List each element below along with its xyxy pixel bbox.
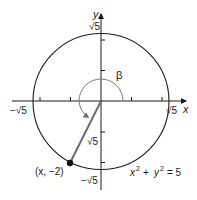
svg-text:2: 2	[136, 165, 140, 172]
point-marker	[67, 160, 73, 166]
x-axis-label: x	[182, 103, 189, 115]
y-neg-label: −√5	[81, 175, 98, 186]
circle-equation: x 2 + y 2 = 5	[129, 165, 182, 178]
svg-text:= 5: = 5	[167, 167, 182, 178]
angle-label: β	[116, 69, 122, 81]
x-neg-label: −√5	[10, 105, 27, 116]
svg-text:y: y	[153, 167, 160, 178]
terminal-side	[70, 101, 101, 163]
y-pos-label: √5	[89, 21, 100, 32]
svg-text:x: x	[129, 167, 136, 178]
circle-diagram: y √5 x √5 −√5 −√5 β √5 (x, −2) x 2 + y 2…	[0, 0, 197, 200]
y-axis-label: y	[92, 8, 100, 20]
x-pos-label: √5	[166, 105, 177, 116]
terminal-length-label: √5	[87, 136, 98, 147]
svg-text:+: +	[143, 167, 149, 178]
svg-text:2: 2	[160, 165, 164, 172]
point-label: (x, −2)	[35, 166, 64, 177]
